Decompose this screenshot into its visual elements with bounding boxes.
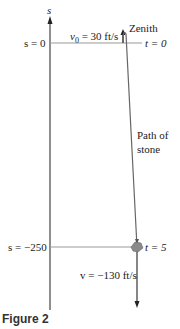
v0-label: v0 = 30 ft/s (70, 31, 118, 45)
stone-path (123, 32, 137, 247)
v-arrow-icon (135, 301, 140, 308)
path-label-line1: Path of (137, 130, 168, 141)
s0-label: s = 0 (24, 38, 45, 49)
t0-label: t = 0 (145, 38, 166, 49)
v0-value: = 30 ft/s (79, 30, 119, 42)
v-label: v = −130 ft/s (80, 270, 137, 281)
stone-icon (131, 242, 143, 252)
s-axis-label: s (47, 5, 51, 16)
t5-label: t = 5 (145, 242, 166, 253)
figure-caption: Figure 2 (2, 312, 49, 326)
s-axis-arrow-icon (48, 16, 53, 24)
s250-label: s = −250 (8, 242, 47, 253)
zenith-label: Zenith (129, 23, 158, 34)
path-label-line2: stone (137, 144, 160, 155)
